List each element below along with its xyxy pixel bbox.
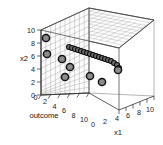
data-point-large (98, 78, 105, 85)
data-point-large (61, 73, 68, 80)
axis-title-x2: x2 (20, 54, 28, 63)
outcome-tick-0: 0 (34, 93, 38, 102)
data-point-large (58, 55, 65, 62)
x1-tick-10: 10 (146, 105, 154, 114)
x1-tick-8: 8 (137, 108, 141, 117)
x2-tick-6: 6 (31, 52, 35, 61)
outcome-tick-8: 8 (72, 111, 76, 120)
outcome-tick-10: 10 (80, 115, 88, 124)
x2-tick-2: 2 (31, 78, 35, 87)
x2-tick-4: 4 (31, 65, 35, 74)
outcome-tick-4: 4 (53, 102, 57, 111)
axis-x1: 0 2 4 6 8 10 x1 (91, 96, 154, 137)
x1-tick-2: 2 (103, 117, 107, 126)
axis-outcome: 0 2 4 6 8 10 outcome (29, 93, 89, 125)
x1-tick-0: 0 (91, 120, 95, 129)
data-point-large (42, 34, 49, 41)
figure-3d-scatter: 10 8 6 4 2 0 x2 0 2 4 6 8 10 outcome (0, 0, 163, 145)
outcome-tick-6: 6 (62, 106, 66, 115)
data-point-large (43, 50, 50, 57)
data-point-large (114, 66, 121, 73)
outcome-tick-2: 2 (43, 97, 47, 106)
axis-title-x1: x1 (114, 128, 122, 137)
x1-tick-6: 6 (126, 111, 130, 120)
x2-tick-8: 8 (31, 39, 35, 48)
plot-canvas: 10 8 6 4 2 0 x2 0 2 4 6 8 10 outcome (0, 0, 163, 145)
x1-tick-4: 4 (115, 114, 119, 123)
data-point-large (66, 63, 73, 70)
x2-tick-10: 10 (27, 26, 35, 35)
data-point-large (86, 72, 93, 79)
axis-x2: 10 8 6 4 2 0 x2 (20, 26, 41, 100)
axis-title-outcome: outcome (29, 111, 58, 120)
